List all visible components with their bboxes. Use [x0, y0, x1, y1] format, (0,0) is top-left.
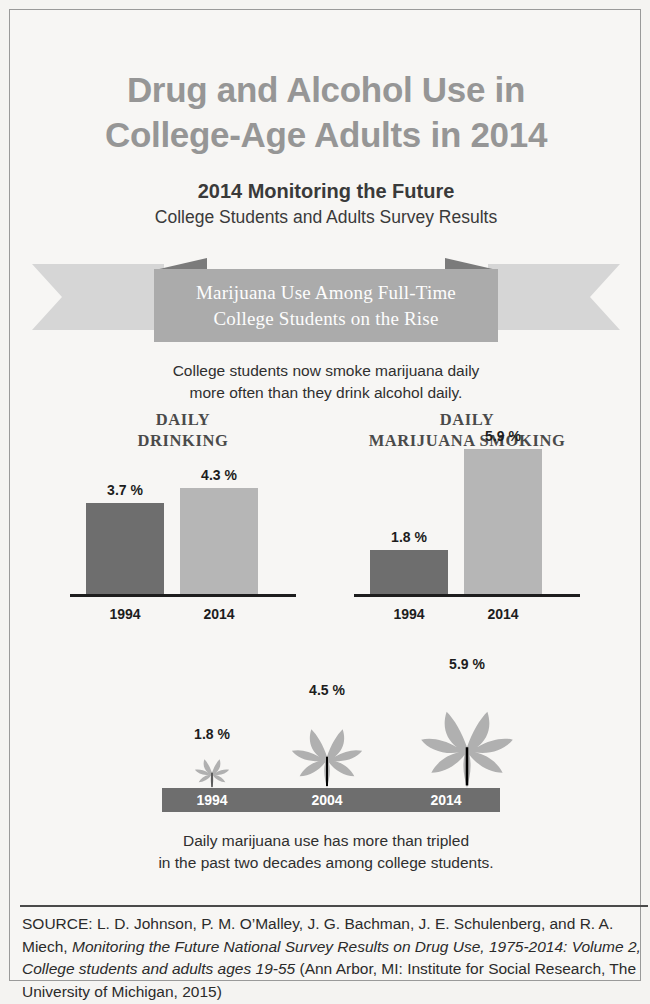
page-frame: Drug and Alcohol Use in College-Age Adul… — [9, 9, 641, 981]
x-tick-label-1994: 1994 — [370, 606, 448, 622]
x-tick-label-1994: 1994 — [86, 606, 164, 622]
leaf-group-2014: 5.9 % — [392, 656, 542, 788]
ribbon-wing-left — [32, 264, 164, 330]
bar-1994 — [370, 550, 448, 594]
leaf-year-label-1994: 1994 — [162, 788, 262, 812]
bar-group-1994: 3.7 % — [86, 482, 164, 594]
lead-caption-line-1: College students now smoke marijuana dai… — [10, 360, 642, 382]
x-axis-line — [354, 594, 580, 597]
title-line-1: Drug and Alcohol Use in — [10, 68, 642, 113]
leaf-year-label-2014: 2014 — [392, 788, 500, 812]
page-subtitle: 2014 Monitoring the Future College Stude… — [10, 178, 642, 230]
leaf-baseline-bar: 1994 2004 2014 — [162, 788, 500, 812]
leaf-year-label-2004: 2004 — [262, 788, 392, 812]
leaf-value-label: 1.8 % — [194, 726, 230, 742]
bar-2014 — [464, 449, 542, 594]
title-line-2: College-Age Adults in 2014 — [10, 113, 642, 158]
chart-title-line-1: DAILY — [48, 410, 318, 431]
bar-value-label: 5.9 % — [485, 428, 521, 444]
marijuana-leaf-icon — [403, 676, 531, 788]
ribbon-wing-right — [488, 264, 620, 330]
chart-daily-marijuana-smoking: DAILY MARIJUANA SMOKING 1.8 % 5.9 % 1994… — [332, 410, 602, 625]
bar-value-label: 1.8 % — [391, 529, 427, 545]
bottom-caption-line-1: Daily marijuana use has more than triple… — [10, 830, 642, 852]
bottom-caption-line-2: in the past two decades among college st… — [10, 852, 642, 874]
source-citation: SOURCE: L. D. Johnson, P. M. O’Malley, J… — [22, 913, 648, 1004]
leaf-group-2004: 4.5 % — [262, 682, 392, 788]
x-tick-label-2014: 2014 — [464, 606, 542, 622]
bar-value-label: 4.3 % — [201, 467, 237, 483]
chart-leaf-pictogram: 1.8 % 4.5 % 5.9 % — [10, 638, 642, 820]
marijuana-leaf-icon — [188, 746, 236, 788]
bar-value-label: 3.7 % — [107, 482, 143, 498]
bottom-caption: Daily marijuana use has more than triple… — [10, 830, 642, 875]
bar-group-2014: 4.3 % — [180, 467, 258, 594]
bar-group-1994: 1.8 % — [370, 529, 448, 594]
ribbon-banner: Marijuana Use Among Full-Time College St… — [10, 258, 642, 336]
subtitle-line-2: College Students and Adults Survey Resul… — [10, 205, 642, 230]
leaf-value-label: 4.5 % — [309, 682, 345, 698]
plot-area-daily-marijuana-smoking: 1.8 % 5.9 % — [332, 439, 602, 597]
bar-group-2014: 5.9 % — [464, 428, 542, 594]
leaf-value-label: 5.9 % — [449, 656, 485, 672]
bar-charts: DAILY DRINKING 3.7 % 4.3 % 1994 2014 — [10, 410, 642, 625]
ribbon-text-line-2: College Students on the Rise — [213, 306, 438, 331]
ribbon-text-line-1: Marijuana Use Among Full-Time — [196, 280, 456, 305]
x-tick-label-2014: 2014 — [180, 606, 258, 622]
x-axis-line — [70, 594, 296, 597]
marijuana-leaf-icon — [278, 702, 376, 788]
leaf-group-1994: 1.8 % — [162, 726, 262, 788]
plot-area-daily-drinking: 3.7 % 4.3 % — [48, 439, 318, 597]
lead-caption: College students now smoke marijuana dai… — [10, 360, 642, 404]
bar-2014 — [180, 488, 258, 594]
ribbon-band: Marijuana Use Among Full-Time College St… — [154, 269, 498, 342]
lead-caption-line-2: more often than they drink alcohol daily… — [10, 382, 642, 404]
bar-1994 — [86, 503, 164, 594]
page-title: Drug and Alcohol Use in College-Age Adul… — [10, 68, 642, 158]
source-divider — [20, 905, 648, 907]
subtitle-line-1: 2014 Monitoring the Future — [10, 178, 642, 205]
chart-daily-drinking: DAILY DRINKING 3.7 % 4.3 % 1994 2014 — [48, 410, 318, 625]
